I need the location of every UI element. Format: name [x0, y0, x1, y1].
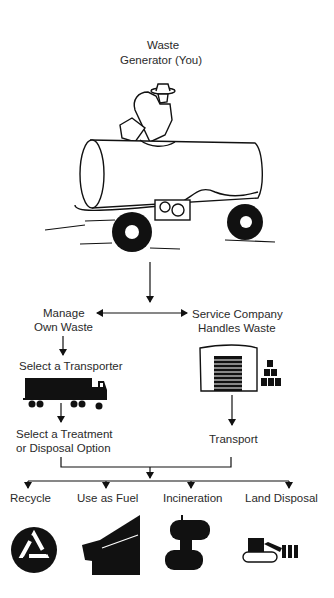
drums-icon	[261, 360, 281, 386]
recycle-icon	[11, 527, 57, 573]
branch-manage-own-line2: Own Waste	[34, 320, 93, 334]
tanker-illustration	[75, 84, 262, 220]
option-land-disposal: Land Disposal	[245, 491, 318, 505]
bulldozer-icon	[243, 538, 298, 562]
warehouse-icon	[200, 345, 257, 391]
step-select-option-line2: or Disposal Option	[16, 441, 111, 455]
diagram-graphics	[0, 0, 334, 598]
option-incineration: Incineration	[163, 491, 222, 505]
branch-manage-own-line1: Manage	[43, 306, 85, 320]
option-recycle: Recycle	[10, 491, 51, 505]
branch-service-company-line2: Handles Waste	[198, 321, 276, 335]
truck-icon	[23, 378, 107, 410]
step-transport: Transport	[209, 432, 258, 446]
merge-connector	[61, 457, 231, 467]
branch-service-company-line1: Service Company	[192, 307, 283, 321]
step-select-option-line1: Select a Treatment	[16, 427, 113, 441]
option-use-as-fuel: Use as Fuel	[77, 491, 138, 505]
kiln-icon	[82, 515, 140, 575]
incinerator-icon	[165, 515, 210, 570]
step-select-transporter: Select a Transporter	[19, 359, 123, 373]
